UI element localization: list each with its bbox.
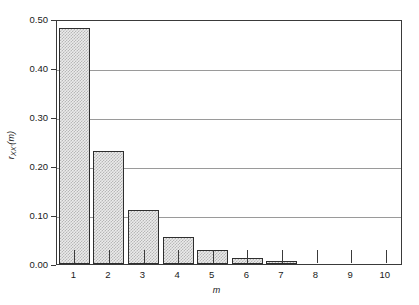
x-tick-label: 6 [244,269,249,280]
x-tick-mark [74,250,75,263]
x-tick-label: 7 [278,269,283,280]
x-tick-label: 2 [105,269,110,280]
y-tick-label: 0.00 [30,259,49,270]
x-tick-mark [144,250,145,263]
x-tick-label: 1 [71,269,76,280]
x-tick-mark [213,250,214,263]
y-tick-mark [51,265,56,266]
x-tick-label: 5 [209,269,214,280]
y-tick-label: 0.20 [30,161,49,172]
x-tick-mark [282,250,283,263]
gridline [57,70,401,71]
x-tick-mark [317,250,318,263]
y-tick-label: 0.40 [30,63,49,74]
plot-area [56,20,402,265]
y-axis-label-base: r [6,156,16,159]
x-tick-mark [247,250,248,263]
bar [93,151,124,264]
gridline [57,119,401,120]
y-tick-label: 0.10 [30,210,49,221]
y-axis-label-container: rXX'(m) [0,100,22,190]
x-tick-label: 8 [313,269,318,280]
y-axis-label-subscript: XX' [10,145,17,156]
x-tick-label: 3 [140,269,145,280]
x-tick-mark [351,250,352,263]
y-axis-label: rXX'(m) [6,131,17,160]
x-tick-label: 10 [379,269,390,280]
x-axis-label: m [213,285,221,295]
y-tick-label: 0.30 [30,112,49,123]
x-tick-label: 9 [347,269,352,280]
x-tick-mark [386,250,387,263]
x-axis-label-container: m [0,285,419,295]
x-tick-mark [178,250,179,263]
x-tick-mark [109,250,110,263]
chart-figure: rXX'(m) 0.000.100.200.300.400.50 1234567… [0,0,419,305]
y-axis-label-paren: (m) [6,131,16,145]
bar [59,28,90,264]
x-tick-label: 4 [174,269,179,280]
y-tick-label: 0.50 [30,14,49,25]
